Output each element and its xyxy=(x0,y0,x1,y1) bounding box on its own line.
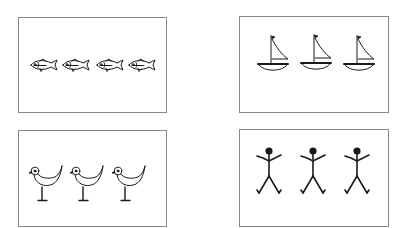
fish-icon xyxy=(63,59,89,72)
stick-figure-group xyxy=(240,130,390,228)
stick-figure-icon xyxy=(345,147,369,193)
fish-icon xyxy=(97,59,123,72)
bird-icon xyxy=(112,166,145,201)
stick-figure-icon xyxy=(257,147,281,193)
bird-icon xyxy=(29,166,62,201)
fish-group xyxy=(19,18,168,114)
fish-icon xyxy=(31,59,57,72)
bird-icon xyxy=(70,166,103,201)
bird-group xyxy=(19,131,168,228)
panel-stick-figures: stick figures xyxy=(239,129,389,227)
fish-icon xyxy=(129,59,155,72)
panel-sailboats: sailboats xyxy=(239,16,389,113)
sailboat-group xyxy=(240,17,390,114)
panel-fish: fish xyxy=(18,17,167,113)
stick-figure-icon xyxy=(301,147,325,193)
sailboat-icon xyxy=(301,35,331,69)
sailboat-icon xyxy=(344,36,374,70)
sailboat-icon xyxy=(258,36,288,70)
panel-birds: birds xyxy=(18,130,167,227)
